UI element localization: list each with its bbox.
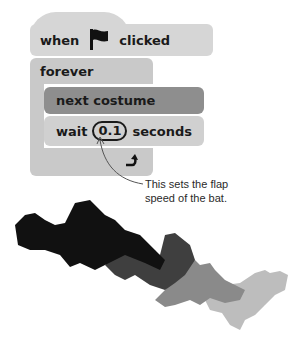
annotation-line-1: This sets the flap xyxy=(145,177,228,191)
bat-dark xyxy=(15,200,165,270)
bat-costumes-illustration xyxy=(0,195,297,340)
